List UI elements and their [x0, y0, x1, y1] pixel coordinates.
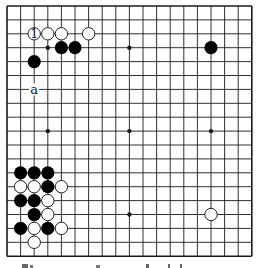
black-stone	[41, 180, 54, 193]
white-stone	[42, 208, 54, 220]
star-point	[46, 46, 50, 50]
star-point	[209, 129, 213, 133]
white-stone: 1	[28, 27, 40, 41]
black-stone	[204, 41, 217, 54]
black-stone	[55, 41, 68, 54]
point-label: a	[30, 82, 38, 97]
black-stone	[14, 222, 27, 235]
star-point	[46, 129, 50, 133]
go-board-diagram: a 1	[0, 0, 256, 268]
white-stone	[205, 208, 217, 220]
black-stone	[41, 166, 54, 179]
white-stone	[82, 28, 94, 40]
go-board: a 1	[0, 0, 256, 268]
white-stone	[28, 222, 40, 234]
black-stone	[14, 166, 27, 179]
black-stone	[41, 222, 54, 235]
black-stone	[14, 194, 27, 207]
star-point	[127, 212, 131, 216]
black-stone	[28, 55, 41, 68]
black-stone	[68, 41, 81, 54]
white-stone	[55, 28, 67, 40]
white-stone	[55, 181, 67, 193]
caption-fragment	[0, 262, 256, 268]
black-stone	[28, 166, 41, 179]
star-point	[127, 46, 131, 50]
move-number: 1	[30, 27, 38, 41]
white-stone	[28, 181, 40, 193]
white-stone	[55, 222, 67, 234]
white-stone	[14, 181, 26, 193]
white-stone	[42, 28, 54, 40]
white-stone	[28, 236, 40, 248]
white-stone	[42, 194, 54, 206]
caption-cut-off	[0, 262, 256, 268]
black-stone	[28, 208, 41, 221]
star-point	[127, 129, 131, 133]
point-labels: a	[29, 82, 39, 97]
black-stone	[28, 194, 41, 207]
